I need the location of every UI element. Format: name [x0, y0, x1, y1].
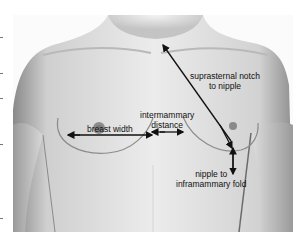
label-line: distance	[140, 120, 194, 130]
label-intermammary-distance: intermammary distance	[140, 110, 194, 130]
label-line: intermammary	[140, 110, 194, 120]
label-line: to nipple	[190, 81, 260, 91]
label-nipple-to-imf: nipple to inframammary fold	[176, 169, 246, 189]
label-line: breast width	[87, 124, 133, 134]
label-line: nipple to	[176, 169, 246, 179]
label-line: inframammary fold	[176, 179, 246, 189]
label-breast-width: breast width	[87, 124, 133, 134]
label-line: suprasternal notch	[190, 71, 260, 81]
label-sn-to-nipple: suprasternal notch to nipple	[190, 71, 260, 91]
